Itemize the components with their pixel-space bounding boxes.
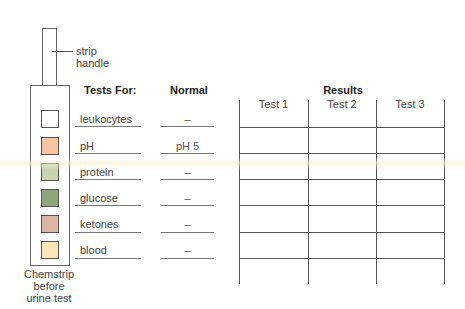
grid-hline [239,258,445,259]
pad-blood [41,241,59,259]
strip-handle [42,28,57,86]
caption-line2: before [18,280,80,292]
underline [161,126,214,127]
grid-hline [239,179,445,180]
grid-hline [239,205,445,206]
handle-label: strip handle [76,45,109,69]
underline [161,179,214,180]
handle-label-line2: handle [76,57,109,69]
results-header: Results [316,84,370,96]
underline [161,258,214,259]
pad-glucose [41,189,59,207]
underline [75,153,141,154]
underline [75,179,141,180]
normal-value-protein: – [161,166,214,178]
normal-value-glucose: – [161,192,214,204]
normal-header: Normal [170,84,208,96]
pad-leukocytes [41,110,59,128]
underline [75,232,141,233]
test-name-ph: pH [80,140,94,152]
underline [161,205,214,206]
grid-hline [239,127,445,128]
handle-label-line1: strip [76,45,109,57]
test-name-blood: blood [80,244,107,256]
strip-caption: Chemstrip before urine test [18,268,80,304]
handle-leader-line [52,51,73,52]
normal-value-blood: – [161,244,214,256]
results-col-test-2: Test 2 [308,98,376,110]
pad-protein [41,163,59,181]
underline [75,126,141,127]
grid-hline [239,153,445,154]
pad-ph [41,137,59,155]
grid-hline [239,232,445,233]
test-name-protein: protein [80,166,114,178]
underline [161,232,214,233]
underline [161,153,214,154]
normal-value-ketones: – [161,218,214,230]
results-col-test-1: Test 1 [239,98,308,110]
test-name-ketones: ketones [80,218,119,230]
underline [75,258,141,259]
test-name-glucose: glucose [80,192,118,204]
normal-value-leukocytes: – [161,113,214,125]
test-name-leukocytes: leukocytes [80,113,132,125]
tests-for-header: Tests For: [84,84,136,96]
caption-line1: Chemstrip [18,268,80,280]
underline [75,205,141,206]
pad-ketones [41,215,59,233]
normal-value-ph: pH 5 [161,140,214,152]
caption-line3: urine test [18,292,80,304]
results-col-test-3: Test 3 [376,98,444,110]
